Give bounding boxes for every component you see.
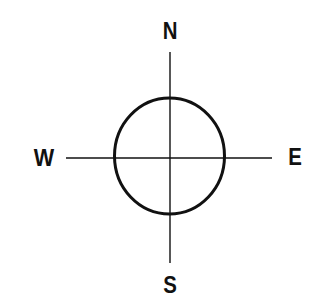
north-label: N (163, 19, 178, 43)
south-label: S (163, 273, 177, 297)
east-label: E (288, 145, 302, 169)
compass-diagram: N S W E (0, 0, 314, 301)
west-label: W (34, 146, 54, 170)
